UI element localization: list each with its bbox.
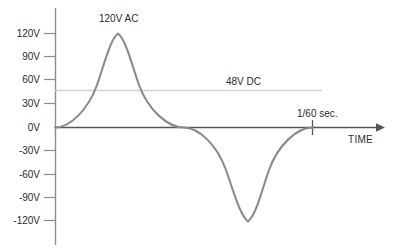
y-axis-label-neg120: -120V <box>0 215 40 226</box>
ac-dc-waveform-chart: 120V 90V 60V 30V 0V -30V -60V -90V -120V… <box>0 0 402 252</box>
y-axis-ticks <box>44 34 55 221</box>
period-annotation: 1/60 sec. <box>297 108 338 119</box>
y-axis-label-neg30: -30V <box>0 145 40 156</box>
ac-series-annotation: 120V AC <box>99 13 138 24</box>
y-axis-label-30: 30V <box>0 98 40 109</box>
x-axis-arrowhead <box>376 123 385 132</box>
y-axis-label-60: 60V <box>0 74 40 85</box>
y-axis-label-neg90: -90V <box>0 192 40 203</box>
y-axis-label-neg60: -60V <box>0 169 40 180</box>
x-axis-title: TIME <box>348 134 373 145</box>
dc-series-annotation: 48V DC <box>226 76 261 87</box>
chart-canvas <box>0 0 402 252</box>
y-axis-label-120: 120V <box>0 28 40 39</box>
y-axis-label-90: 90V <box>0 51 40 62</box>
y-axis-label-0: 0V <box>0 122 40 133</box>
